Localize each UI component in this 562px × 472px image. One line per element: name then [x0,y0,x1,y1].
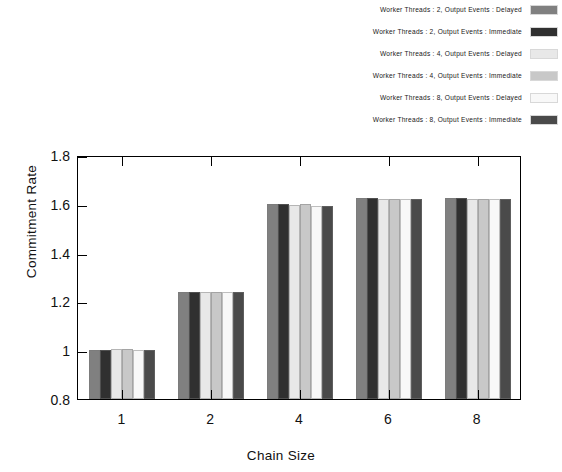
y-axis-tick [78,352,87,353]
bar [322,206,333,399]
legend-color-swatch [530,49,558,59]
bar [222,292,233,399]
legend-label: Worker Threads : 8, Output Events : Imme… [373,115,522,125]
bar [311,206,322,399]
y-axis-title: Commitment Rate [24,137,39,307]
y-axis-tick-label: 1.8 [34,148,70,164]
y-axis-tick-label: 0.8 [34,392,70,408]
x-axis-tick-labels: 12468 [77,411,521,431]
bar [411,199,422,399]
y-axis-tick-label: 1 [34,343,70,359]
x-axis-tick-label: 8 [457,411,497,427]
bar-series-container [78,157,520,399]
bar [189,292,200,399]
x-axis-tick-label: 1 [101,411,141,427]
y-axis-tick-label: 1.4 [34,246,70,262]
bar [122,349,133,399]
bar [478,199,489,399]
x-axis-tick-label: 4 [279,411,319,427]
x-axis-tick [389,390,390,399]
legend-item: Worker Threads : 8, Output Events : Dela… [380,90,558,106]
bar [200,292,211,399]
legend-item: Worker Threads : 2, Output Events : Dela… [380,2,558,18]
bar [500,199,511,399]
bar [111,349,122,399]
x-axis-tick [300,157,301,166]
legend-item: Worker Threads : 4, Output Events : Imme… [373,68,558,84]
chart-legend: Worker Threads : 2, Output Events : Dela… [318,2,558,134]
bar [389,199,400,399]
x-axis-tick [478,157,479,166]
y-axis-tick [78,255,87,256]
x-axis-tick [389,157,390,166]
x-axis-tick-label: 2 [190,411,230,427]
bar [178,292,189,399]
y-axis-tick [78,157,87,158]
legend-label: Worker Threads : 2, Output Events : Imme… [373,27,522,37]
bar [144,350,155,399]
y-axis-tick [78,206,87,207]
bar [233,292,244,399]
y-axis-tick-label: 1.2 [34,294,70,310]
bar [367,198,378,399]
bar [456,198,467,399]
legend-label: Worker Threads : 2, Output Events : Dela… [380,5,522,15]
legend-label: Worker Threads : 4, Output Events : Imme… [373,71,522,81]
legend-color-swatch [530,5,558,15]
x-axis-tick [211,157,212,166]
legend-color-swatch [530,71,558,81]
legend-color-swatch [530,27,558,37]
bar [445,198,456,399]
bar [100,350,111,399]
bar [489,199,500,399]
bar [89,350,100,399]
bar-group [167,157,256,399]
bar-group [78,157,167,399]
bar-group [256,157,345,399]
plot-area [77,156,521,400]
legend-color-swatch [530,93,558,103]
x-axis-tick [211,390,212,399]
bar [400,199,411,399]
y-axis-tick [78,303,87,304]
bar [300,204,311,399]
bar [467,199,478,399]
bar [378,199,389,399]
bar [211,292,222,399]
y-axis-tick-label: 1.6 [34,197,70,213]
legend-item: Worker Threads : 4, Output Events : Dela… [380,46,558,62]
legend-item: Worker Threads : 8, Output Events : Imme… [373,112,558,128]
x-axis-tick [300,390,301,399]
x-axis-tick-label: 6 [368,411,408,427]
x-axis-tick [478,390,479,399]
bar [289,205,300,399]
bar [133,350,144,399]
bar [356,198,367,399]
bar [267,204,278,399]
legend-label: Worker Threads : 8, Output Events : Dela… [380,93,522,103]
x-axis-title: Chain Size [0,448,562,463]
legend-color-swatch [530,115,558,125]
legend-item: Worker Threads : 2, Output Events : Imme… [373,24,558,40]
bar [278,204,289,399]
x-axis-tick [122,390,123,399]
legend-label: Worker Threads : 4, Output Events : Dela… [380,49,522,59]
bar-group [344,157,433,399]
bar-group [433,157,522,399]
x-axis-tick [122,157,123,166]
